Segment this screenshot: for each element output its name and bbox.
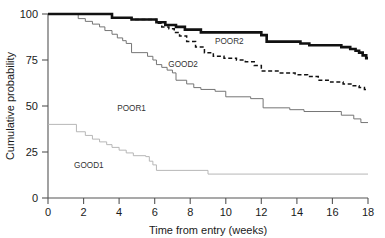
y-axis-title: Cumulative probability bbox=[4, 51, 16, 160]
x-tick-label-6: 6 bbox=[152, 206, 158, 218]
y-axis-ticks: 100 75 50 25 0 bbox=[20, 8, 48, 204]
x-tick-label-0: 0 bbox=[45, 206, 51, 218]
y-tick-label-0: 0 bbox=[32, 192, 38, 204]
y-tick-label-25: 25 bbox=[26, 146, 38, 158]
x-tick-label-4: 4 bbox=[116, 206, 122, 218]
x-tick-label-10: 10 bbox=[220, 206, 232, 218]
chart-figure: 100 75 50 25 0 0 2 4 6 8 10 12 bbox=[0, 0, 385, 238]
curve-poor1 bbox=[48, 14, 368, 123]
curve-good2 bbox=[48, 14, 368, 89]
x-tick-label-12: 12 bbox=[255, 206, 267, 218]
series-annotations: POOR2 GOOD2 POOR1 GOOD1 bbox=[74, 37, 244, 169]
y-tick-label-50: 50 bbox=[26, 100, 38, 112]
y-tick-label-100: 100 bbox=[20, 8, 38, 20]
series-label-good1: GOOD1 bbox=[74, 161, 104, 170]
curves-group bbox=[48, 14, 368, 174]
x-axis-ticks: 0 2 4 6 8 10 12 14 16 18 bbox=[45, 198, 374, 218]
series-label-poor2: POOR2 bbox=[215, 37, 244, 46]
series-label-good2: GOOD2 bbox=[168, 60, 198, 69]
x-tick-label-14: 14 bbox=[291, 206, 303, 218]
curve-poor2 bbox=[48, 14, 368, 58]
y-tick-label-75: 75 bbox=[26, 54, 38, 66]
x-tick-label-16: 16 bbox=[326, 206, 338, 218]
series-label-poor1: POOR1 bbox=[117, 104, 146, 113]
x-tick-label-2: 2 bbox=[81, 206, 87, 218]
survival-curve-chart: 100 75 50 25 0 0 2 4 6 8 10 12 bbox=[0, 0, 385, 238]
x-axis-title: Time from entry (weeks) bbox=[149, 224, 267, 236]
x-tick-label-18: 18 bbox=[362, 206, 374, 218]
x-tick-label-8: 8 bbox=[187, 206, 193, 218]
